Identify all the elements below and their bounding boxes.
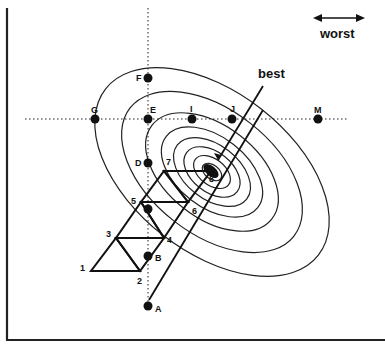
label-point-B: B <box>155 254 162 263</box>
label-vertex-8: 8 <box>209 175 214 184</box>
simplex-3-4-5 <box>116 202 164 238</box>
label-vertex-3: 3 <box>106 230 111 239</box>
optimization-diagram <box>0 0 385 346</box>
worst-double-arrow-icon <box>313 14 365 22</box>
point-D <box>144 159 153 168</box>
point-G <box>91 115 100 124</box>
label-vertex-5: 5 <box>131 197 136 206</box>
point-C <box>144 205 153 214</box>
label-vertex-2: 2 <box>137 277 142 286</box>
point-E <box>144 115 153 124</box>
point-F <box>144 74 153 83</box>
label-point-G: G <box>91 106 98 115</box>
label-vertex-6: 6 <box>192 207 197 216</box>
label-point-A: A <box>155 305 162 314</box>
point-J <box>228 115 237 124</box>
label-point-D: D <box>135 159 142 168</box>
label-point-E: E <box>150 106 156 115</box>
label-vertex-1: 1 <box>80 264 85 273</box>
point-B <box>144 252 153 261</box>
point-I <box>188 115 197 124</box>
point-M <box>314 115 323 124</box>
label-point-I: I <box>190 105 193 114</box>
best-label: best <box>258 67 285 80</box>
simplex-1-2-3 <box>91 238 140 271</box>
worst-label: worst <box>320 27 355 40</box>
label-point-F: F <box>136 74 142 83</box>
label-vertex-7: 7 <box>166 158 171 167</box>
point-A <box>144 302 153 311</box>
label-point-J: J <box>230 105 235 114</box>
label-point-M: M <box>314 106 322 115</box>
label-vertex-4: 4 <box>167 236 172 245</box>
